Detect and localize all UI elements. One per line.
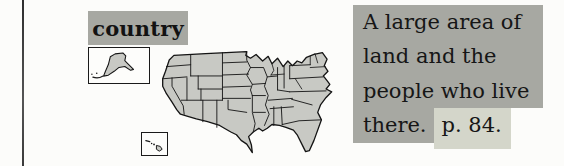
- definition-last-line: there. p. 84.: [353, 108, 543, 149]
- alaska-inset: [88, 47, 150, 84]
- headword: country: [92, 16, 184, 41]
- flashcard-page: country: [0, 0, 564, 166]
- hawaii-map: [142, 133, 167, 155]
- usa-outline: [163, 52, 332, 153]
- definition-line: there.: [353, 108, 434, 143]
- alaska-map: [89, 48, 149, 83]
- page-reference: p. 84.: [434, 108, 511, 149]
- usa-map: [146, 47, 340, 160]
- definition-line: A large area of: [353, 5, 543, 39]
- column-rule: [22, 0, 24, 166]
- hawaii-inset: [141, 132, 168, 156]
- headword-highlight: country: [88, 11, 188, 45]
- definition-block: A large area of land and the people who …: [353, 5, 543, 149]
- definition-line: people who live: [353, 74, 543, 108]
- definition-line: land and the: [353, 39, 543, 73]
